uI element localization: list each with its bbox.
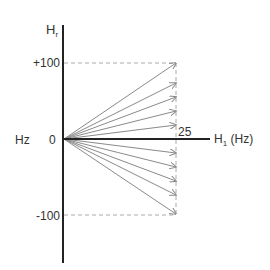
top-tick-label: +100 bbox=[33, 57, 60, 69]
arrow-icon bbox=[64, 139, 176, 153]
left-unit-label: Hz bbox=[15, 134, 30, 146]
arrow-icon bbox=[64, 97, 176, 139]
arrow-icon bbox=[64, 139, 176, 195]
arrow-icon bbox=[64, 111, 176, 139]
x-tick-label: 25 bbox=[178, 126, 191, 138]
x-axis-label-sub: 1 bbox=[223, 139, 227, 148]
bottom-tick-label: -100 bbox=[36, 210, 60, 222]
y-axis-label: Hr bbox=[46, 23, 58, 39]
x-axis-label-main: H bbox=[214, 132, 223, 146]
x-axis-label: H1 (Hz) bbox=[214, 133, 253, 148]
arrow-icon bbox=[64, 83, 176, 139]
arrow-icon bbox=[64, 139, 176, 214]
y-axis-label-sub: r bbox=[55, 30, 58, 39]
arrow-icon bbox=[64, 139, 176, 181]
y-axis-label-main: H bbox=[46, 22, 55, 37]
x-axis-unit: (Hz) bbox=[230, 132, 253, 146]
origin-label: 0 bbox=[49, 134, 56, 146]
arrow-icon bbox=[64, 139, 176, 167]
